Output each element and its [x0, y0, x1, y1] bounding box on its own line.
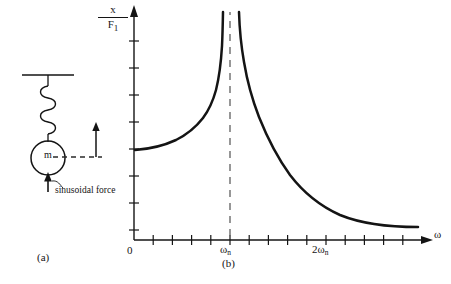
plot-resonance [129, 5, 433, 245]
y-axis-label-denominator: F1 [96, 18, 130, 34]
panel-b-label: (b) [222, 258, 235, 269]
diagram-mass-spring [22, 75, 102, 192]
curve-above-resonance [239, 12, 418, 227]
figure-canvas [0, 0, 451, 284]
panel-a-label: (a) [37, 252, 49, 263]
x-tick-label-omega-n: ωn [220, 244, 231, 256]
x-tick-label-two-omega-n: 2ωn [312, 244, 328, 256]
sinusoidal-force-label: sinusoidal force [55, 186, 115, 196]
y-axis-label: x F1 [96, 4, 130, 33]
mass-label: m [44, 150, 52, 160]
displacement-arrow [92, 122, 99, 157]
spring-icon [41, 86, 56, 134]
figure-root: x F1 0 ωn 2ωn ω m sinusoidal force (a) (… [0, 0, 451, 284]
y-axis-arrowhead [130, 5, 138, 17]
y-axis-label-numerator: x [96, 4, 130, 17]
curve-below-resonance [135, 12, 223, 150]
x-tick-label-zero: 0 [127, 245, 133, 256]
x-axis-arrowhead [421, 236, 433, 244]
x-axis-symbol-label: ω [434, 229, 441, 240]
